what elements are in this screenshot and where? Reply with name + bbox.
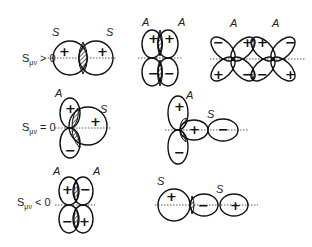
- svg-text:−: −: [213, 35, 224, 50]
- panel-p-p-pi: A A + + − −: [138, 16, 185, 86]
- svg-text:A: A: [92, 165, 100, 177]
- svg-text:−: −: [285, 35, 296, 50]
- panel-p-p-neg: A A + − − +: [52, 165, 100, 233]
- svg-text:−: −: [198, 198, 209, 213]
- svg-text:A: A: [54, 87, 62, 99]
- svg-text:−: −: [62, 214, 73, 229]
- svg-text:−: −: [164, 66, 175, 81]
- svg-text:S: S: [100, 103, 108, 115]
- svg-text:+: +: [65, 101, 76, 116]
- condition-label-positive: Sμν > 0: [22, 52, 56, 67]
- panel-p-s-zero: A S + + −: [54, 87, 112, 158]
- svg-text:A: A: [177, 16, 185, 28]
- panel-s-p-neg: S S + − +: [155, 175, 258, 221]
- svg-text:−: −: [242, 67, 253, 82]
- svg-text:+: +: [97, 44, 108, 59]
- svg-text:+: +: [79, 214, 90, 229]
- panel-p-p-zero: A S + + − −: [165, 89, 248, 164]
- svg-text:−: −: [174, 145, 185, 160]
- svg-text:S: S: [106, 26, 114, 38]
- svg-text:S: S: [52, 26, 60, 38]
- svg-text:A: A: [185, 89, 193, 101]
- svg-text:−: −: [80, 182, 91, 197]
- svg-text:+: +: [174, 99, 185, 114]
- svg-text:−: −: [218, 122, 229, 137]
- svg-text:S: S: [157, 175, 165, 187]
- svg-text:+: +: [242, 35, 253, 50]
- svg-text:+: +: [213, 67, 224, 82]
- svg-text:−: −: [65, 143, 76, 158]
- svg-text:+: +: [230, 198, 241, 213]
- svg-text:+: +: [148, 31, 159, 46]
- panel-s-s: S S + +: [48, 26, 116, 75]
- condition-label-zero: Sμν = 0: [22, 121, 56, 136]
- svg-text:+: +: [257, 35, 268, 50]
- svg-text:+: +: [62, 182, 73, 197]
- panel-d-d-delta: A A − + + − + − − +: [207, 17, 305, 85]
- condition-label-negative: Sμν < 0: [17, 196, 51, 211]
- svg-text:+: +: [285, 67, 296, 82]
- svg-text:S: S: [207, 108, 215, 120]
- svg-text:−: −: [257, 67, 268, 82]
- svg-text:+: +: [166, 189, 177, 204]
- svg-text:+: +: [90, 114, 101, 129]
- svg-text:+: +: [189, 122, 200, 137]
- svg-text:A: A: [229, 17, 237, 29]
- overlap-diagram: Sμν > 0 S S + + A A + + − −: [0, 0, 312, 247]
- svg-text:A: A: [141, 16, 149, 28]
- svg-text:S: S: [216, 183, 224, 195]
- svg-text:+: +: [59, 44, 70, 59]
- svg-text:A: A: [271, 17, 279, 29]
- svg-text:−: −: [148, 66, 159, 81]
- svg-text:A: A: [52, 165, 60, 177]
- svg-text:+: +: [164, 31, 175, 46]
